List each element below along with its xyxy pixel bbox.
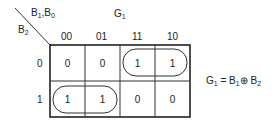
kmap-cell: 1 bbox=[155, 45, 190, 81]
kmap-cell: 0 bbox=[50, 45, 85, 81]
kmap-cell: 1 bbox=[120, 45, 155, 81]
kmap-cell: 1 bbox=[50, 81, 85, 117]
row-header: 1 bbox=[37, 95, 43, 105]
kmap-cell: 0 bbox=[120, 81, 155, 117]
equation: G1 = B1⊕ B2 bbox=[206, 76, 261, 89]
map-title: G1 bbox=[114, 9, 126, 22]
col-header: 11 bbox=[132, 32, 142, 42]
kmap-cell: 0 bbox=[155, 81, 190, 117]
row-header: 0 bbox=[37, 59, 43, 69]
column-variables: B1,B0 bbox=[31, 8, 55, 21]
row-variable: B2 bbox=[18, 25, 29, 38]
kmap-cell: 1 bbox=[85, 81, 120, 117]
col-header: 00 bbox=[61, 32, 72, 42]
col-header: 01 bbox=[96, 32, 107, 42]
col-header: 10 bbox=[167, 32, 178, 42]
kmap-cell: 0 bbox=[85, 45, 120, 81]
xor-symbol: ⊕ bbox=[240, 75, 248, 86]
